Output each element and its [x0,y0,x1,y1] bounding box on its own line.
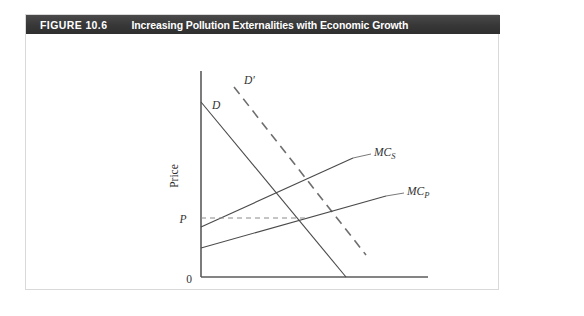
mcp-leader-line [386,193,404,196]
figure-header-bar: FIGURE 10.6 Increasing Pollution Externa… [26,15,500,34]
demand-curve-d-prime [234,87,366,255]
label-mcs-base: MC [373,146,392,158]
label-demand-d-prime: D′ [243,74,255,86]
demand-curve-d [201,102,346,277]
label-origin-zero: 0 [186,273,192,285]
figure-container: FIGURE 10.6 Increasing Pollution Externa… [25,14,499,290]
marginal-cost-social-curve [201,158,353,227]
mcs-leader-line [353,154,371,158]
chart-plot-area: D D′ MCS MCP P 0 Price Quantity of good … [26,34,500,290]
label-mcs-subscript: S [391,151,396,161]
economics-supply-demand-chart: D D′ MCS MCP P 0 Price Quantity of good … [26,34,500,290]
label-demand-d: D [211,99,221,111]
figure-number-label: FIGURE 10.6 [40,19,107,31]
y-axis-title: Price [168,164,180,188]
label-price-p: P [178,213,186,225]
marginal-cost-private-curve [201,196,386,248]
label-mcp-base: MC [406,185,425,197]
label-marginal-cost-private: MCP [406,185,429,200]
figure-title: Increasing Pollution Externalities with … [131,19,408,31]
label-mcp-subscript: P [423,190,429,200]
label-marginal-cost-social: MCS [373,146,396,161]
